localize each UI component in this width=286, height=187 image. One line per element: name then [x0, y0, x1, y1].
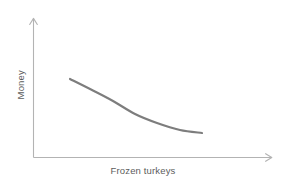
chart-container: Money Frozen turkeys [0, 0, 286, 187]
x-axis-label: Frozen turkeys [0, 166, 286, 176]
data-curve-line [70, 79, 202, 133]
y-axis-line [30, 18, 38, 157]
x-axis-line [34, 154, 272, 162]
chart-plot-area [0, 0, 286, 187]
y-axis-label: Money [16, 55, 26, 115]
